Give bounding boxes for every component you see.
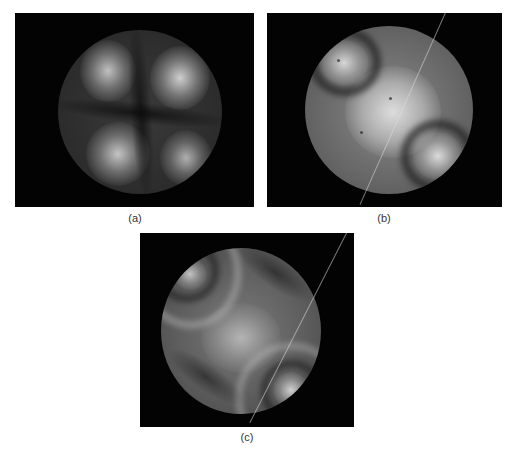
- dust-speck: [389, 97, 392, 100]
- dark-fringe: [305, 26, 473, 194]
- panel-a: [15, 13, 254, 207]
- fringe-disc-b: [305, 26, 473, 194]
- dust-speck: [337, 59, 340, 62]
- panel-label-a: (a): [115, 212, 155, 224]
- bright-lobe: [160, 130, 212, 186]
- panel-label-b: (b): [364, 212, 404, 224]
- dark-fringe: [231, 248, 321, 311]
- panel-c: [140, 233, 354, 427]
- dust-speck: [360, 131, 363, 134]
- fringe-disc-a: [58, 30, 222, 194]
- bright-lobe: [150, 46, 210, 110]
- panel-label-c: (c): [227, 431, 267, 443]
- panel-b: [267, 13, 502, 207]
